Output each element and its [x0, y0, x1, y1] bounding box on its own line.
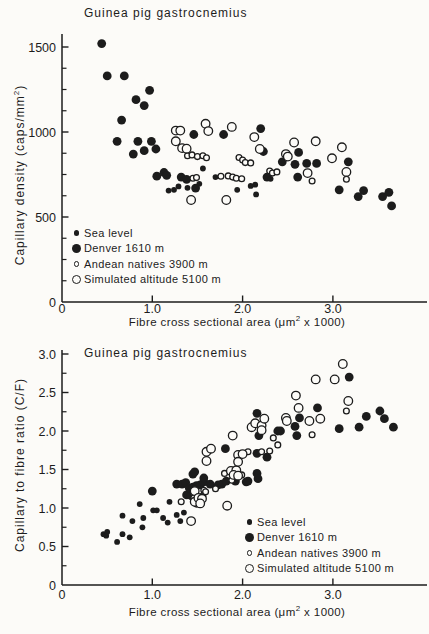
legend-marker-cell: [242, 533, 257, 542]
data-point: [177, 518, 183, 524]
capillary-density-plot: 05001000150001.02.03.0 Guinea pig gastro…: [0, 0, 429, 330]
legend-label: Simulated altitude 5100 m: [84, 273, 221, 285]
data-point: [187, 196, 196, 205]
data-point: [362, 412, 371, 421]
data-point: [187, 517, 196, 526]
data-point: [274, 169, 280, 175]
filled-large-marker-icon: [72, 244, 81, 253]
data-point: [355, 423, 364, 432]
data-point: [132, 95, 141, 104]
data-point: [234, 187, 240, 193]
data-point: [167, 499, 173, 505]
data-point: [127, 534, 133, 540]
y-tick-label: 2.0: [39, 425, 56, 439]
data-point: [140, 101, 149, 110]
xlabel-text-end: x 1000): [301, 316, 346, 328]
y-tick-label: 1.0: [39, 502, 56, 516]
open-large-marker-icon: [72, 275, 81, 284]
xlabel-text: Fibre cross sectional area (μm: [129, 316, 296, 328]
data-point: [162, 171, 171, 180]
data-point: [221, 444, 230, 453]
density-plot-title: Guinea pig gastrocnemius: [84, 6, 247, 20]
data-point: [178, 499, 184, 505]
data-point: [253, 192, 259, 198]
legend-marker-cell: [242, 519, 257, 525]
data-point: [97, 39, 106, 48]
data-point: [380, 414, 389, 423]
data-point: [113, 137, 122, 146]
ylabel-superscript: 2: [12, 90, 21, 95]
data-point: [103, 72, 112, 81]
data-point: [293, 173, 302, 182]
data-point: [213, 486, 219, 492]
data-point: [252, 182, 258, 188]
data-point: [134, 137, 143, 146]
data-point: [165, 520, 171, 526]
data-point: [359, 186, 368, 195]
data-point: [120, 531, 126, 537]
ylabel-text-end: ): [13, 85, 27, 90]
data-point: [312, 159, 321, 168]
data-point: [120, 72, 129, 81]
data-point: [376, 407, 385, 416]
data-point: [338, 143, 347, 152]
data-point: [120, 513, 126, 519]
data-point: [204, 127, 213, 136]
data-point: [267, 448, 273, 454]
legend-item: Denver 1610 m: [242, 530, 394, 546]
legend-label: Denver 1610 m: [84, 242, 164, 254]
data-point: [145, 86, 154, 95]
legend-marker-cell: [242, 550, 257, 556]
data-point: [190, 467, 199, 476]
x-tick-label: 1.0: [144, 588, 161, 602]
ratio-scatter-canvas: 00.51.01.52.02.53.001.02.03.0: [0, 330, 429, 634]
data-point: [344, 176, 350, 182]
data-point: [303, 169, 312, 178]
data-point: [228, 431, 237, 440]
legend-label: Andean natives 3900 m: [257, 547, 381, 559]
data-point: [309, 432, 315, 438]
y-tick-label: 1500: [28, 41, 56, 55]
data-point: [203, 489, 209, 495]
data-point: [335, 185, 344, 194]
density-legend: Sea levelDenver 1610 mAndean natives 390…: [69, 225, 221, 287]
data-point: [295, 414, 304, 423]
data-point: [330, 375, 339, 384]
data-point: [291, 422, 300, 431]
data-point: [345, 373, 354, 382]
data-point: [291, 160, 300, 169]
data-point: [270, 435, 276, 441]
data-point: [311, 375, 320, 384]
density-y-axis-label: Capillary density (caps/mm2): [9, 50, 25, 300]
ylabel-text: Capillary density (caps/mm: [13, 95, 27, 265]
data-point: [185, 185, 191, 191]
data-point: [207, 444, 216, 453]
legend-item: Simulated altitude 5100 m: [242, 561, 394, 577]
data-point: [181, 510, 187, 516]
data-point: [104, 529, 110, 535]
data-point: [294, 404, 303, 413]
ylabel-text: Capillary to fibre ratio (C/F): [13, 378, 27, 552]
data-point: [228, 123, 237, 132]
data-point: [248, 160, 254, 166]
data-point: [389, 423, 398, 432]
data-point: [260, 414, 269, 423]
ratio-legend: Sea levelDenver 1610 mAndean natives 390…: [242, 514, 394, 576]
data-point: [268, 176, 274, 182]
legend-label: Sea level: [84, 227, 133, 239]
data-point: [254, 474, 263, 483]
data-point: [166, 188, 172, 194]
data-point: [256, 124, 265, 133]
data-point: [244, 477, 253, 486]
data-point: [154, 507, 160, 513]
data-point: [387, 202, 396, 211]
legend-item: Sea level: [242, 514, 394, 530]
data-point: [176, 126, 185, 135]
data-point: [202, 457, 211, 466]
legend-label: Andean natives 3900 m: [84, 258, 208, 270]
data-point: [147, 137, 156, 146]
data-point: [114, 539, 120, 545]
data-point: [199, 474, 208, 483]
data-point: [283, 417, 292, 426]
data-point: [182, 144, 191, 153]
